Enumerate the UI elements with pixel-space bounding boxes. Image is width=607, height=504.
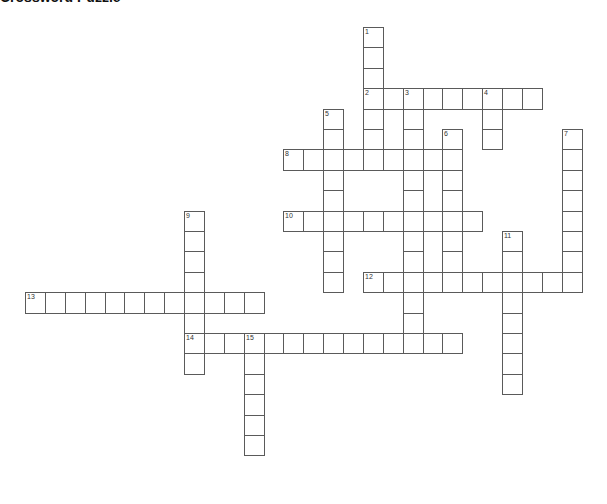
crossword-cell[interactable]: 3 [403, 88, 424, 110]
crossword-cell[interactable] [323, 272, 344, 293]
crossword-cell[interactable] [442, 190, 463, 212]
crossword-cell[interactable] [144, 292, 165, 314]
crossword-cell[interactable] [244, 394, 265, 416]
crossword-cell[interactable] [124, 292, 145, 314]
crossword-cell[interactable] [403, 333, 424, 354]
crossword-cell[interactable] [403, 211, 424, 232]
crossword-cell[interactable] [363, 333, 384, 354]
crossword-cell[interactable] [442, 272, 463, 293]
crossword-cell[interactable] [383, 272, 404, 293]
crossword-cell[interactable] [184, 272, 205, 293]
crossword-cell[interactable] [204, 333, 225, 354]
crossword-cell[interactable] [85, 292, 106, 314]
crossword-cell[interactable] [363, 109, 384, 130]
crossword-cell[interactable]: 8 [283, 149, 304, 171]
crossword-cell[interactable] [323, 149, 344, 171]
crossword-cell[interactable]: 7 [562, 129, 583, 150]
crossword-cell[interactable] [224, 333, 245, 354]
crossword-cell[interactable] [363, 211, 384, 232]
crossword-cell[interactable] [184, 353, 205, 375]
crossword-cell[interactable] [423, 272, 443, 293]
crossword-cell[interactable] [65, 292, 86, 314]
crossword-cell[interactable]: 2 [363, 88, 384, 110]
crossword-cell[interactable] [442, 149, 463, 171]
crossword-cell[interactable] [442, 88, 463, 110]
crossword-cell[interactable] [224, 292, 245, 314]
crossword-cell[interactable] [482, 129, 503, 150]
crossword-cell[interactable] [502, 272, 523, 293]
crossword-cell[interactable] [562, 149, 583, 171]
crossword-cell[interactable] [542, 272, 563, 293]
crossword-cell[interactable] [562, 190, 583, 212]
crossword-cell[interactable] [462, 88, 483, 110]
crossword-cell[interactable]: 15 [244, 333, 265, 354]
crossword-cell[interactable]: 12 [363, 272, 384, 293]
crossword-cell[interactable] [363, 47, 384, 69]
crossword-cell[interactable] [423, 88, 443, 110]
crossword-cell[interactable] [482, 272, 503, 293]
crossword-cell[interactable] [562, 251, 583, 273]
crossword-cell[interactable] [244, 435, 265, 456]
crossword-cell[interactable]: 14 [184, 333, 205, 354]
crossword-cell[interactable] [283, 333, 304, 354]
crossword-cell[interactable]: 11 [502, 231, 523, 252]
crossword-cell[interactable] [462, 211, 483, 232]
crossword-cell[interactable] [403, 129, 424, 150]
crossword-cell[interactable] [403, 251, 424, 273]
crossword-cell[interactable] [423, 333, 443, 354]
crossword-cell[interactable] [303, 333, 324, 354]
crossword-cell[interactable]: 6 [442, 129, 463, 150]
crossword-cell[interactable] [403, 109, 424, 130]
crossword-cell[interactable] [522, 272, 543, 293]
crossword-cell[interactable] [502, 88, 523, 110]
crossword-cell[interactable] [562, 231, 583, 252]
crossword-cell[interactable] [323, 211, 344, 232]
crossword-cell[interactable] [323, 190, 344, 212]
crossword-cell[interactable]: 4 [482, 88, 503, 110]
crossword-cell[interactable] [363, 129, 384, 150]
crossword-cell[interactable]: 5 [323, 109, 344, 130]
crossword-cell[interactable] [264, 333, 284, 354]
crossword-cell[interactable] [502, 313, 523, 334]
crossword-cell[interactable] [403, 149, 424, 171]
crossword-cell[interactable] [323, 231, 344, 252]
crossword-cell[interactable] [105, 292, 125, 314]
crossword-cell[interactable] [323, 251, 344, 273]
crossword-cell[interactable] [184, 251, 205, 273]
crossword-cell[interactable] [403, 272, 424, 293]
crossword-cell[interactable] [184, 292, 205, 314]
crossword-cell[interactable] [423, 211, 443, 232]
crossword-cell[interactable] [482, 109, 503, 130]
crossword-cell[interactable] [442, 211, 463, 232]
crossword-cell[interactable] [383, 211, 404, 232]
crossword-cell[interactable] [403, 170, 424, 191]
crossword-cell[interactable] [323, 129, 344, 150]
crossword-cell[interactable] [164, 292, 185, 314]
crossword-cell[interactable] [343, 211, 364, 232]
crossword-cell[interactable] [303, 149, 324, 171]
crossword-cell[interactable] [442, 251, 463, 273]
crossword-cell[interactable] [343, 149, 364, 171]
crossword-cell[interactable] [383, 88, 404, 110]
crossword-cell[interactable] [383, 149, 404, 171]
crossword-cell[interactable] [462, 272, 483, 293]
crossword-cell[interactable] [204, 292, 225, 314]
crossword-cell[interactable] [383, 333, 404, 354]
crossword-cell[interactable] [323, 333, 344, 354]
crossword-cell[interactable] [244, 374, 265, 395]
crossword-cell[interactable] [363, 68, 384, 89]
crossword-cell[interactable] [244, 415, 265, 436]
crossword-cell[interactable] [502, 374, 523, 395]
crossword-cell[interactable] [562, 272, 583, 293]
crossword-cell[interactable] [403, 190, 424, 212]
crossword-cell[interactable] [502, 292, 523, 314]
crossword-cell[interactable] [502, 353, 523, 375]
crossword-cell[interactable] [562, 170, 583, 191]
crossword-cell[interactable] [45, 292, 66, 314]
crossword-cell[interactable] [502, 333, 523, 354]
crossword-cell[interactable] [423, 149, 443, 171]
crossword-cell[interactable] [363, 149, 384, 171]
crossword-cell[interactable] [244, 292, 265, 314]
crossword-cell[interactable] [442, 170, 463, 191]
crossword-cell[interactable]: 9 [184, 211, 205, 232]
